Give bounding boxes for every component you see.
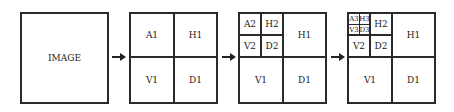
label-h3: H3 xyxy=(359,15,370,23)
image-label: IMAGE xyxy=(48,53,81,63)
cell-d1: D1 xyxy=(393,58,434,102)
cell-v1: V1 xyxy=(131,58,175,102)
level1-box: A1 H1 V1 D1 xyxy=(129,12,218,104)
image-box: IMAGE xyxy=(20,12,109,104)
label-v1: V1 xyxy=(255,75,267,85)
cell-h2: H2 xyxy=(371,14,393,36)
label-h2: H2 xyxy=(265,19,279,29)
cell-v2: V2 xyxy=(240,36,262,58)
label-v2: V2 xyxy=(353,41,365,51)
cell-h1: H1 xyxy=(284,14,325,58)
label-v2: V2 xyxy=(244,41,256,51)
label-h1: H1 xyxy=(189,30,203,40)
label-d3: D3 xyxy=(359,26,369,34)
cell-d3: D3 xyxy=(360,25,371,36)
label-v3: V3 xyxy=(349,26,359,34)
arrow-icon xyxy=(222,52,236,62)
label-d1: D1 xyxy=(189,75,202,85)
image-label-cell: IMAGE xyxy=(22,14,107,102)
label-a1: A1 xyxy=(146,30,158,40)
cell-h1: H1 xyxy=(393,14,434,58)
cell-h1: H1 xyxy=(175,14,216,58)
cell-v2: V2 xyxy=(349,36,371,58)
cell-h3: H3 xyxy=(360,14,371,25)
label-d1: D1 xyxy=(298,75,311,85)
label-d2: D2 xyxy=(375,41,388,51)
arrow-icon xyxy=(112,52,126,62)
cell-d2: D2 xyxy=(262,36,284,58)
cell-d1: D1 xyxy=(284,58,325,102)
cell-d2: D2 xyxy=(371,36,393,58)
cell-v1: V1 xyxy=(349,58,393,102)
cell-a2: A2 xyxy=(240,14,262,36)
label-a2: A2 xyxy=(244,19,256,29)
label-v1: V1 xyxy=(364,75,376,85)
cell-a1: A1 xyxy=(131,14,175,58)
level3-box: A3 H3 V3 D3 H2 V2 D2 H1 V1 D1 xyxy=(347,12,436,104)
label-h2: H2 xyxy=(374,19,388,29)
arrow-icon xyxy=(331,52,345,62)
label-d2: D2 xyxy=(266,41,279,51)
level2-box: A2 H2 V2 D2 H1 V1 D1 xyxy=(238,12,327,104)
label-v1: V1 xyxy=(146,75,158,85)
label-a3: A3 xyxy=(349,15,359,23)
label-h1: H1 xyxy=(407,30,421,40)
cell-v1: V1 xyxy=(240,58,284,102)
label-d1: D1 xyxy=(407,75,420,85)
cell-h2: H2 xyxy=(262,14,284,36)
cell-v3: V3 xyxy=(349,25,360,36)
label-h1: H1 xyxy=(298,30,312,40)
cell-d1: D1 xyxy=(175,58,216,102)
